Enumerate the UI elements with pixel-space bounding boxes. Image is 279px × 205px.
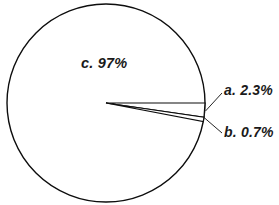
slice-label-b: b. 0.7% xyxy=(224,124,274,140)
pie-chart-canvas xyxy=(0,0,279,205)
leader-line-a xyxy=(206,93,223,111)
leader-line-b xyxy=(204,118,222,134)
slice-label-a: a. 2.3% xyxy=(224,82,273,98)
pie-chart-figure: c. 97% a. 2.3% b. 0.7% xyxy=(0,0,279,205)
slice-label-c: c. 97% xyxy=(81,55,127,71)
